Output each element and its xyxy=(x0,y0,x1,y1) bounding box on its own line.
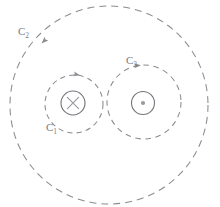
loop-label-c2-base: C xyxy=(18,25,25,37)
outer-loop-c2-circle xyxy=(10,6,208,204)
loop-label-c1-sub: 1 xyxy=(53,127,57,136)
loop-label-c1: C1 xyxy=(46,121,57,136)
loop-label-c3-base: C xyxy=(126,54,133,66)
left-wire-into-page-symbol xyxy=(61,91,85,115)
outer-loop-c2-arrowhead xyxy=(40,37,49,46)
loop-label-c3: C3 xyxy=(126,54,137,69)
diagram-canvas: C2 C1 C3 xyxy=(0,0,220,207)
cross-icon xyxy=(67,97,78,108)
loop-label-c1-base: C xyxy=(46,121,53,133)
loop-label-c3-sub: 3 xyxy=(133,60,137,69)
physics-diagram-figure: C2 C1 C3 xyxy=(0,0,220,207)
loop-label-c2-sub: 2 xyxy=(25,31,29,40)
loop-label-c2: C2 xyxy=(18,25,29,40)
dot-icon xyxy=(141,101,145,105)
right-wire-out-of-page-symbol xyxy=(132,92,155,115)
